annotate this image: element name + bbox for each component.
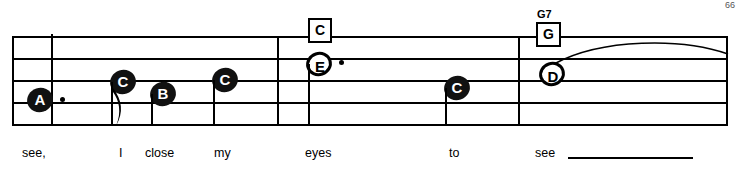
barline-2 (518, 36, 520, 126)
note-stem-b (151, 94, 153, 126)
note-letter-a: A (27, 88, 53, 112)
barline-1 (277, 36, 279, 126)
augmentation-dot-a (60, 97, 65, 102)
slur-arc (552, 38, 732, 74)
note-letter-c-3: C (444, 76, 470, 100)
lyric-3: close (145, 146, 174, 160)
lyric-1: see, (22, 146, 46, 160)
note-letter-b: B (150, 82, 176, 106)
note-head-a: A (24, 85, 56, 116)
lyric-5: eyes (305, 146, 331, 160)
sheet-music-system: 66 C G7 G A C B C E C (0, 0, 739, 172)
note-letter-c-2: C (212, 68, 238, 92)
lyric-extension-line (568, 157, 693, 159)
lyric-4: my (214, 146, 231, 160)
page-number: 66 (725, 0, 735, 10)
eighth-flag-c-1 (108, 88, 134, 128)
lyric-7: see (535, 146, 555, 160)
note-stem-c-3 (445, 88, 447, 126)
chord-label-g7: G7 (537, 8, 552, 20)
note-stem-c-2 (213, 80, 215, 126)
lyric-2: I (119, 146, 122, 160)
note-stem-e (308, 64, 310, 126)
chord-box-c: C (308, 18, 332, 43)
lyric-6: to (449, 146, 459, 160)
note-letter-e: E (310, 55, 330, 79)
augmentation-dot-e (339, 60, 344, 65)
barline-start (12, 36, 14, 126)
